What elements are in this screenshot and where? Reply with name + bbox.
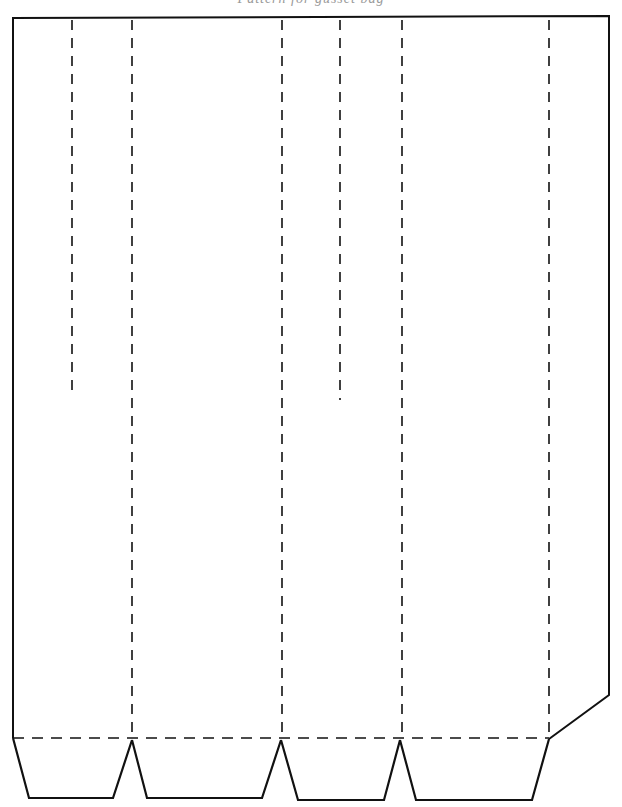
cut-outline [13, 16, 609, 739]
bottom-flap-3 [281, 740, 400, 800]
bag-template-diagram [0, 0, 622, 807]
bottom-flaps [13, 738, 549, 800]
bottom-flap-4 [400, 739, 549, 800]
bottom-flap-2 [132, 740, 281, 798]
outline-path [13, 16, 609, 739]
bottom-flap-1 [13, 738, 132, 798]
fold-lines-full [132, 20, 549, 738]
fold-lines-partial [72, 20, 340, 400]
